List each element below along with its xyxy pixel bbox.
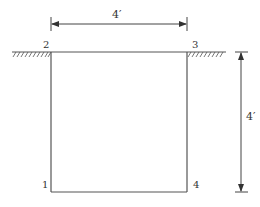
ground-hatch-right-icon [188, 52, 223, 57]
height-dimension-label: 4′ [246, 110, 256, 123]
width-dimension: 4′ [51, 8, 187, 31]
width-dimension-label: 4′ [112, 8, 122, 21]
node-label-2: 2 [43, 39, 49, 50]
ground-hatch-left-icon [13, 52, 51, 57]
excavation-diagram: 4′ 2 3 1 4 4′ [0, 0, 260, 207]
node-label-3: 3 [192, 39, 198, 50]
node-label-1: 1 [42, 179, 48, 190]
node-label-4: 4 [193, 179, 199, 190]
height-dimension: 4′ [235, 52, 256, 192]
